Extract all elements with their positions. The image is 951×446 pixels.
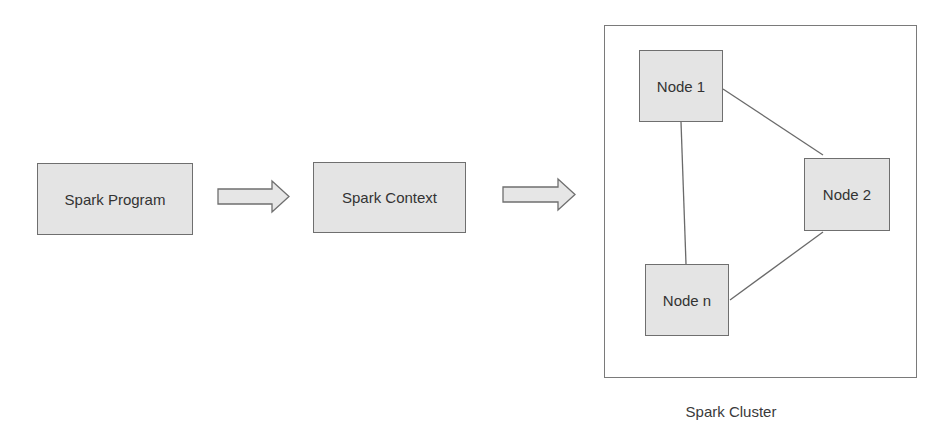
node-n-label: Node n bbox=[663, 292, 711, 309]
node-1-box: Node 1 bbox=[639, 50, 723, 122]
spark-program-box: Spark Program bbox=[37, 163, 193, 235]
node-2-box: Node 2 bbox=[804, 158, 890, 231]
arrow-right-icon bbox=[218, 181, 289, 212]
spark-context-label: Spark Context bbox=[342, 189, 437, 206]
node-1-label: Node 1 bbox=[657, 78, 705, 95]
node-n-box: Node n bbox=[645, 264, 729, 336]
spark-program-label: Spark Program bbox=[65, 191, 166, 208]
node-2-label: Node 2 bbox=[823, 186, 871, 203]
spark-cluster-caption: Spark Cluster bbox=[656, 403, 806, 420]
spark-context-box: Spark Context bbox=[313, 162, 466, 233]
arrow-right-icon bbox=[503, 179, 575, 210]
